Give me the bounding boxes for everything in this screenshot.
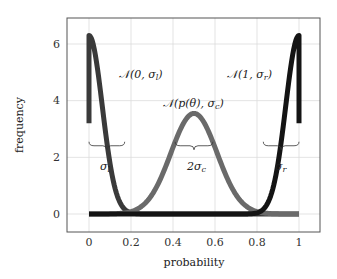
y-tick: 2 (53, 151, 60, 164)
y-tick: 0 (53, 208, 60, 221)
x-tick: 0 (86, 236, 93, 249)
left-curve-label: 𝒩(0, σl) (119, 68, 163, 82)
right-curve-label: 𝒩(1, σr) (227, 68, 272, 82)
x-tick: 0.2 (122, 236, 140, 249)
y-tick-labels: 0 2 4 6 (53, 38, 60, 221)
two-sigma-c-label: 2σc (186, 160, 207, 174)
curves (89, 36, 299, 215)
x-tick: 0.6 (206, 236, 224, 249)
x-tick-labels: 0 0.2 0.4 0.6 0.8 1 (86, 236, 303, 249)
y-tick: 4 (53, 94, 60, 107)
x-axis-label: probability (164, 256, 226, 269)
braces (89, 142, 299, 150)
right-curve (89, 36, 299, 215)
x-tick: 0.4 (164, 236, 182, 249)
sigma-r-label: σr (275, 160, 288, 174)
center-curve-label: 𝒩(p(θ), σc) (163, 97, 224, 111)
y-axis-label: frequency (13, 96, 26, 153)
left-curve (89, 36, 299, 215)
brace (175, 142, 213, 150)
x-tick: 1 (296, 236, 303, 249)
x-tick: 0.8 (248, 236, 266, 249)
chart: 0 0.2 0.4 0.6 0.8 1 0 2 4 6 probability … (0, 0, 337, 279)
y-tick: 6 (53, 38, 60, 51)
